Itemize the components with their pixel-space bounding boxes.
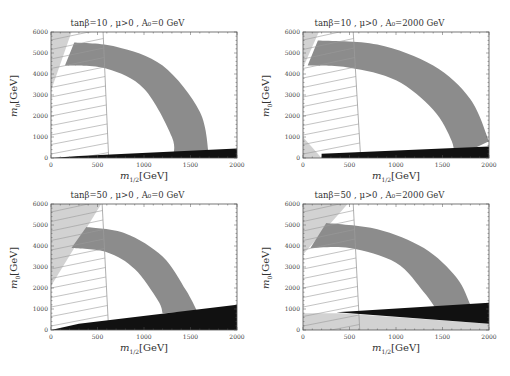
y-tick-label: 0 — [22, 326, 48, 333]
x-tick-label: 1500 — [176, 161, 206, 168]
plot-title: tanβ=50 , μ>0 , A₀=2000 GeV — [252, 190, 507, 200]
y-axis-label: m0[GeV] — [8, 75, 21, 117]
plot-panel-tanb50-a0-2000: tanβ=50 , μ>0 , A₀=2000 GeV0100020003000… — [252, 172, 507, 360]
x-tick-label: 0 — [36, 161, 66, 168]
y-axis-label: m0[GeV] — [260, 247, 273, 289]
plot-panel-tanb50-a0-0: tanβ=50 , μ>0 , A₀=0 GeV0100020003000400… — [0, 172, 255, 360]
x-tick-label: 1000 — [129, 333, 159, 340]
y-tick-label: 1000 — [22, 305, 48, 312]
relic-density-band — [308, 40, 489, 158]
y-tick-label: 6000 — [22, 28, 48, 35]
y-tick-label: 6000 — [274, 28, 300, 35]
y-tick-label: 3000 — [274, 263, 300, 270]
x-tick-label: 1000 — [381, 333, 411, 340]
y-tick-label: 6000 — [22, 200, 48, 207]
y-axis-label: m0[GeV] — [8, 247, 21, 289]
x-tick-label: 1500 — [428, 333, 458, 340]
stau-lsp-region — [322, 146, 489, 158]
y-tick-label: 4000 — [274, 242, 300, 249]
x-axis-label: m1/2[GeV] — [84, 342, 204, 355]
y-tick-label: 0 — [274, 326, 300, 333]
x-tick-label: 0 — [288, 333, 318, 340]
x-tick-label: 500 — [83, 333, 113, 340]
y-tick-label: 2000 — [274, 284, 300, 291]
x-tick-label: 1500 — [176, 333, 206, 340]
y-tick-label: 3000 — [274, 91, 300, 98]
y-tick-label: 5000 — [22, 49, 48, 56]
y-tick-label: 4000 — [22, 70, 48, 77]
y-tick-label: 1000 — [274, 133, 300, 140]
y-tick-label: 1000 — [274, 305, 300, 312]
y-tick-label: 4000 — [274, 70, 300, 77]
x-tick-label: 2000 — [222, 161, 252, 168]
y-axis-label: m0[GeV] — [260, 75, 273, 117]
x-tick-label: 2000 — [222, 333, 252, 340]
x-axis-label: m1/2[GeV] — [336, 342, 456, 355]
plot-title: tanβ=10 , μ>0 , A₀=2000 GeV — [252, 18, 507, 28]
y-tick-label: 2000 — [22, 112, 48, 119]
y-tick-label: 2000 — [22, 284, 48, 291]
y-tick-label: 4000 — [22, 242, 48, 249]
relic-density-band — [310, 223, 470, 309]
y-tick-label: 5000 — [274, 221, 300, 228]
y-tick-label: 0 — [274, 154, 300, 161]
x-tick-label: 1000 — [129, 161, 159, 168]
plot-title: tanβ=50 , μ>0 , A₀=0 GeV — [0, 190, 255, 200]
y-tick-label: 3000 — [22, 263, 48, 270]
relic-density-band — [65, 43, 209, 159]
y-tick-label: 2000 — [274, 112, 300, 119]
plot-panel-tanb10-a0-0: tanβ=10 , μ>0 , A₀=0 GeV0100020003000400… — [0, 0, 255, 188]
y-tick-label: 0 — [22, 154, 48, 161]
x-tick-label: 2000 — [474, 333, 504, 340]
x-tick-label: 1500 — [428, 161, 458, 168]
x-tick-label: 500 — [335, 333, 365, 340]
x-tick-label: 500 — [335, 161, 365, 168]
y-tick-label: 3000 — [22, 91, 48, 98]
relic-density-band — [71, 227, 197, 313]
y-tick-label: 1000 — [22, 133, 48, 140]
y-tick-label: 6000 — [274, 200, 300, 207]
plot-title: tanβ=10 , μ>0 , A₀=0 GeV — [0, 18, 255, 28]
x-tick-label: 500 — [83, 161, 113, 168]
excluded-region-light — [303, 137, 322, 158]
plot-panel-tanb10-a0-2000: tanβ=10 , μ>0 , A₀=2000 GeV0100020003000… — [252, 0, 507, 188]
x-tick-label: 1000 — [381, 161, 411, 168]
stau-lsp-region — [51, 305, 237, 330]
x-tick-label: 0 — [36, 333, 66, 340]
x-tick-label: 0 — [288, 161, 318, 168]
y-tick-label: 5000 — [274, 49, 300, 56]
x-tick-label: 2000 — [474, 161, 504, 168]
y-tick-label: 5000 — [22, 221, 48, 228]
